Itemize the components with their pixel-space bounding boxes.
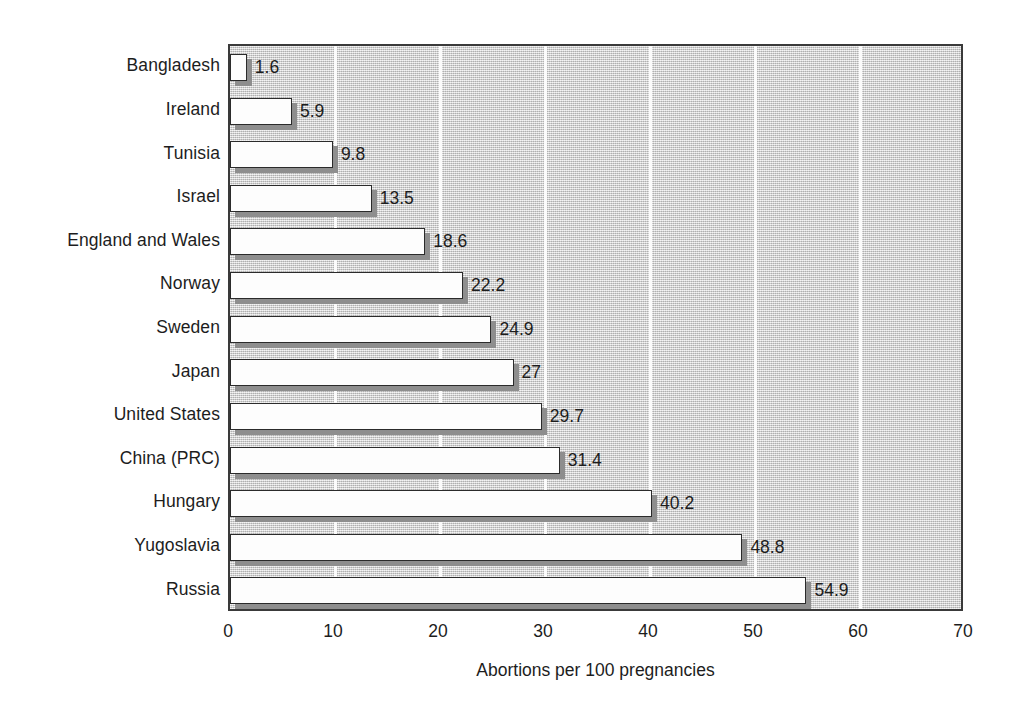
x-tick-label: 70 (953, 620, 972, 642)
x-tick-label: 20 (428, 620, 447, 642)
bar-row: 24.9 (230, 308, 963, 352)
bar-value-label: 27 (522, 363, 541, 382)
bar[interactable] (230, 447, 560, 474)
x-tick-label: 50 (743, 620, 762, 642)
bar[interactable] (230, 403, 542, 430)
x-axis-title: Abortions per 100 pregnancies (228, 660, 963, 681)
category-label: Bangladesh (0, 57, 220, 75)
x-tick-label: 60 (848, 620, 867, 642)
bar[interactable] (230, 141, 333, 168)
bar-value-label: 31.4 (568, 451, 602, 470)
bar-value-label: 5.9 (300, 102, 324, 121)
bar-row: 31.4 (230, 439, 963, 483)
bar-value-label: 1.6 (255, 58, 279, 77)
bar[interactable] (230, 98, 292, 125)
bar-row: 22.2 (230, 264, 963, 308)
bar-row: 27 (230, 351, 963, 395)
bar[interactable] (230, 272, 463, 299)
bar-value-label: 40.2 (660, 494, 694, 513)
category-label: China (PRC) (0, 450, 220, 468)
category-label: Israel (0, 188, 220, 206)
bar-row: 13.5 (230, 177, 963, 221)
x-axis-tick-labels: 010203040506070 (228, 620, 963, 646)
x-tick-label: 10 (323, 620, 342, 642)
bar[interactable] (230, 534, 742, 561)
category-label: Japan (0, 363, 220, 381)
bar[interactable] (230, 359, 514, 386)
bar[interactable] (230, 54, 247, 81)
bar-value-label: 18.6 (433, 232, 467, 251)
category-axis: BangladeshIrelandTunisiaIsraelEngland an… (0, 44, 220, 611)
bar-row: 40.2 (230, 482, 963, 526)
bar[interactable] (230, 316, 491, 343)
bar-row: 1.6 (230, 46, 963, 90)
bar-value-label: 22.2 (471, 276, 505, 295)
x-tick-label: 30 (533, 620, 552, 642)
plot-area: 1.65.99.813.518.622.224.92729.731.440.24… (228, 44, 963, 611)
bar-row: 5.9 (230, 90, 963, 134)
bar-value-label: 54.9 (814, 581, 848, 600)
category-label: England and Wales (0, 232, 220, 250)
bar[interactable] (230, 185, 372, 212)
bar-row: 18.6 (230, 220, 963, 264)
category-label: United States (0, 406, 220, 424)
bar-row: 54.9 (230, 569, 963, 611)
category-label: Norway (0, 275, 220, 293)
category-label: Tunisia (0, 145, 220, 163)
bar-row: 48.8 (230, 526, 963, 570)
category-label: Sweden (0, 319, 220, 337)
category-label: Russia (0, 581, 220, 599)
bar-value-label: 24.9 (499, 320, 533, 339)
category-label: Hungary (0, 493, 220, 511)
category-label: Ireland (0, 101, 220, 119)
category-label: Yugoslavia (0, 537, 220, 555)
bar-value-label: 9.8 (341, 145, 365, 164)
bar-value-label: 13.5 (380, 189, 414, 208)
bar-row: 9.8 (230, 133, 963, 177)
bar[interactable] (230, 228, 425, 255)
bar[interactable] (230, 490, 652, 517)
x-tick-label: 40 (638, 620, 657, 642)
bar[interactable] (230, 577, 806, 604)
bar-chart: BangladeshIrelandTunisiaIsraelEngland an… (0, 0, 1010, 712)
x-tick-label: 0 (223, 620, 233, 642)
bar-row: 29.7 (230, 395, 963, 439)
bar-value-label: 48.8 (750, 538, 784, 557)
bar-value-label: 29.7 (550, 407, 584, 426)
